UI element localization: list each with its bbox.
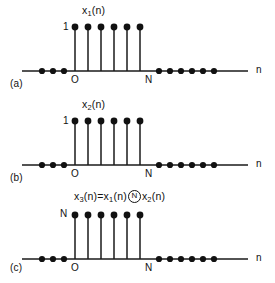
plot-panel-c: x3(n)=x1(n)Nx2(n) N O N n (c) <box>0 188 275 282</box>
axis-label-c: n <box>256 253 262 263</box>
panel-label-b: (b) <box>10 173 23 183</box>
figure-canvas: x1(n) 1 O N n (a) <box>0 0 275 283</box>
plot-a-graphic <box>0 0 275 94</box>
zero-sample-dot <box>189 68 195 74</box>
zero-sample-dot <box>167 162 173 168</box>
zero-sample-dot <box>211 256 217 262</box>
zero-sample-dot <box>200 256 206 262</box>
zero-sample-dot <box>61 68 67 74</box>
zero-sample-dot <box>167 68 173 74</box>
stem-dot <box>124 24 131 31</box>
zero-sample-dot <box>211 68 217 74</box>
amplitude-label-c: N <box>60 209 67 219</box>
stem-dot <box>111 212 118 219</box>
circular-convolution-icon: N <box>128 190 141 203</box>
end-label-c: N <box>145 263 152 273</box>
zero-sample-dot <box>200 162 206 168</box>
zero-sample-dot <box>50 162 56 168</box>
axis-label-a: n <box>256 65 262 75</box>
plot-panel-a: x1(n) 1 O N n (a) <box>0 0 275 94</box>
plot-panel-b: x2(n) 1 O N n (b) <box>0 94 275 188</box>
stem-dot <box>72 118 79 125</box>
stem-dot <box>111 24 118 31</box>
stem-dot <box>72 24 79 31</box>
signal-formula-c: x3(n)=x1(n)Nx2(n) <box>74 191 165 204</box>
zero-sample-dot <box>189 256 195 262</box>
stem-dot <box>137 24 144 31</box>
stem-dot <box>98 24 105 31</box>
end-label-a: N <box>145 75 152 85</box>
stem-dot <box>98 212 105 219</box>
stem-dot <box>98 118 105 125</box>
stem-dot <box>124 212 131 219</box>
stem-dot <box>85 212 92 219</box>
zero-sample-dot <box>189 162 195 168</box>
zero-sample-dot <box>156 68 162 74</box>
zero-sample-dot <box>156 256 162 262</box>
zero-sample-dot <box>178 256 184 262</box>
panel-label-a: (a) <box>10 79 23 89</box>
end-label-b: N <box>145 169 152 179</box>
zero-sample-dot <box>178 162 184 168</box>
zero-sample-dot <box>167 256 173 262</box>
stem-dot <box>124 118 131 125</box>
origin-label-a: O <box>71 75 79 85</box>
signal-title-a: x1(n) <box>82 5 105 16</box>
zero-sample-dot <box>39 68 45 74</box>
amplitude-label-b: 1 <box>63 116 69 126</box>
stem-dot <box>85 24 92 31</box>
stem-dot <box>111 118 118 125</box>
stem-dot <box>137 212 144 219</box>
zero-sample-dot <box>61 256 67 262</box>
zero-sample-dot <box>156 162 162 168</box>
zero-sample-dot <box>61 162 67 168</box>
stem-dot <box>85 118 92 125</box>
axis-label-b: n <box>256 159 262 169</box>
origin-label-c: O <box>71 263 79 273</box>
zero-sample-dot <box>178 68 184 74</box>
zero-sample-dot <box>39 256 45 262</box>
signal-title-b: x2(n) <box>82 99 105 110</box>
panel-label-c: (c) <box>10 263 22 273</box>
stem-dot <box>72 212 79 219</box>
plot-b-graphic <box>0 94 275 188</box>
amplitude-label-a: 1 <box>63 22 69 32</box>
zero-sample-dot <box>39 162 45 168</box>
zero-sample-dot <box>50 68 56 74</box>
origin-label-b: O <box>71 169 79 179</box>
zero-sample-dot <box>211 162 217 168</box>
stem-dot <box>137 118 144 125</box>
zero-sample-dot <box>200 68 206 74</box>
zero-sample-dot <box>50 256 56 262</box>
